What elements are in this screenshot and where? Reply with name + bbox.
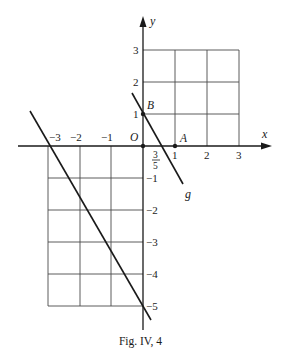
axes [18, 22, 266, 330]
svg-text:5: 5 [153, 161, 158, 171]
origin-label: O [130, 131, 139, 143]
y-tick-neg1: −1 [146, 172, 158, 184]
x-axis-label: x [261, 127, 268, 141]
point-A [173, 144, 177, 148]
x-tick-1: 1 [172, 149, 178, 161]
x-tick-neg1: −1 [101, 131, 113, 143]
point-B [141, 112, 145, 116]
y-tick-neg3: −3 [146, 236, 158, 248]
y-axis-label: y [149, 14, 156, 28]
point-B-label: B [147, 99, 154, 111]
x-tick-neg2: −2 [70, 131, 82, 143]
y-tick-neg4: −4 [146, 268, 158, 280]
grid-quadrant-1 [143, 50, 239, 146]
point-O [141, 144, 145, 148]
line-g-label: g [185, 187, 191, 201]
y-axis-arrow-icon [140, 16, 147, 27]
y-tick-neg5: −5 [146, 300, 158, 312]
fraction-tick-3-5: 3 5 [152, 150, 160, 171]
coordinate-figure: x y O A B g 1 2 3 −3 −2 −1 1 2 3 −1 −2 −… [0, 0, 281, 358]
y-tick-1: 1 [133, 108, 139, 120]
y-tick-2: 2 [133, 76, 139, 88]
x-axis-arrow-icon [261, 143, 272, 150]
figure-caption: Fig. IV, 4 [0, 335, 281, 347]
x-tick-neg3: −3 [49, 131, 61, 143]
x-tick-2: 2 [204, 149, 210, 161]
y-tick-3: 3 [133, 44, 139, 56]
svg-text:3: 3 [153, 150, 158, 160]
point-A-label: A [179, 132, 188, 144]
y-tick-neg2: −2 [146, 204, 158, 216]
x-tick-3: 3 [236, 149, 242, 161]
